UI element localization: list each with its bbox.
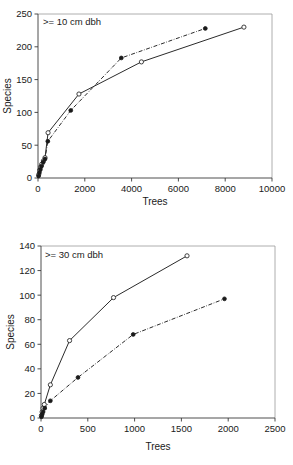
data-point-marker	[111, 296, 115, 300]
y-tick-label: 40	[24, 363, 35, 374]
y-tick-label: 250	[16, 8, 32, 19]
x-tick-label: 1000	[124, 423, 145, 434]
series-group-bottom	[39, 254, 226, 419]
data-point-marker	[76, 376, 80, 380]
x-tick-label: 10000	[259, 183, 285, 194]
y-axis-title-top: Species	[2, 78, 13, 114]
y-tick-label: 0	[27, 172, 32, 183]
series-line-filled-circle-dashdot	[41, 299, 224, 417]
data-point-marker	[41, 410, 45, 414]
y-tick-label: 50	[21, 140, 32, 151]
annotation-top: >= 10 cm dbh	[43, 16, 101, 27]
chart-panel-top: 050100150200250 0200040006000800010000 >…	[0, 0, 293, 212]
y-tick-label: 120	[19, 265, 35, 276]
x-tick-label: 4000	[121, 183, 142, 194]
data-point-marker	[119, 56, 123, 60]
y-ticks-bottom: 020406080100120140	[19, 240, 41, 423]
data-point-marker	[223, 297, 227, 301]
plot-frame-top	[38, 14, 272, 178]
data-point-marker	[48, 383, 52, 387]
y-ticks-top: 050100150200250	[16, 8, 38, 183]
y-tick-label: 140	[19, 240, 35, 251]
data-point-marker	[203, 27, 207, 31]
annotation-bottom: >= 30 cm dbh	[45, 249, 103, 260]
x-tick-label: 8000	[215, 183, 236, 194]
series-line-open-circle-solid	[41, 256, 187, 416]
series-line-open-circle-solid	[39, 27, 244, 175]
x-tick-label: 2000	[74, 183, 95, 194]
data-point-marker	[69, 109, 73, 113]
x-tick-label: 2000	[218, 423, 239, 434]
data-point-marker	[48, 399, 52, 403]
y-tick-label: 200	[16, 41, 32, 52]
data-point-marker	[40, 164, 44, 168]
x-ticks-bottom: 05001000150020002500	[38, 418, 285, 434]
x-tick-label: 1500	[171, 423, 192, 434]
x-tick-label: 500	[80, 423, 96, 434]
data-point-marker	[77, 92, 81, 96]
y-tick-label: 0	[30, 412, 35, 423]
y-tick-label: 60	[24, 339, 35, 350]
x-axis-title-bottom: Trees	[145, 441, 170, 452]
y-axis-title-bottom: Species	[5, 314, 16, 350]
data-point-marker	[46, 131, 50, 135]
series-group-top	[37, 25, 246, 178]
data-point-marker	[43, 406, 47, 410]
data-point-marker	[185, 254, 189, 258]
series-line-filled-circle-dashdot	[39, 28, 206, 176]
data-point-marker	[46, 139, 50, 143]
data-point-marker	[131, 333, 135, 337]
x-ticks-top: 0200040006000800010000	[35, 178, 285, 194]
chart-panel-bottom: 020406080100120140 05001000150020002500 …	[0, 228, 293, 465]
y-tick-label: 20	[24, 388, 35, 399]
data-point-marker	[242, 25, 246, 29]
data-point-marker	[43, 157, 47, 161]
x-tick-label: 0	[38, 423, 43, 434]
y-tick-label: 80	[24, 314, 35, 325]
x-tick-label: 2500	[264, 423, 285, 434]
chart-svg-top: 050100150200250 0200040006000800010000 >…	[0, 0, 293, 212]
y-tick-label: 100	[16, 107, 32, 118]
x-tick-label: 6000	[168, 183, 189, 194]
x-tick-label: 0	[35, 183, 40, 194]
y-tick-label: 150	[16, 74, 32, 85]
data-point-marker	[67, 339, 71, 343]
data-point-marker	[139, 60, 143, 64]
x-axis-title-top: Trees	[142, 196, 167, 207]
y-tick-label: 100	[19, 290, 35, 301]
chart-svg-bottom: 020406080100120140 05001000150020002500 …	[0, 228, 293, 465]
